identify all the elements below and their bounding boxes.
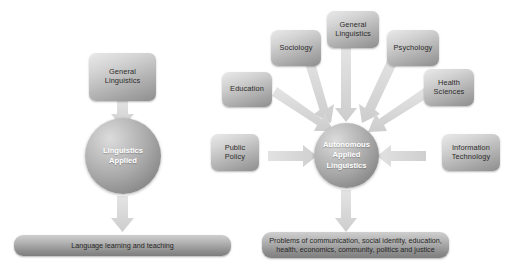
- node-label: GeneralLinguistics: [105, 68, 141, 85]
- node-label: HealthSciences: [434, 79, 465, 96]
- node-label: PublicPolicy: [225, 144, 246, 161]
- node-linguistics-applied[interactable]: LinguisticsApplied: [85, 118, 161, 194]
- figure-canvas: GeneralLinguistics LinguisticsApplied La…: [0, 0, 510, 279]
- node-psychology[interactable]: Psychology: [387, 30, 439, 66]
- node-education[interactable]: Education: [222, 72, 272, 107]
- node-problems-outcome[interactable]: Problems of communication, social identi…: [262, 232, 449, 258]
- node-label: Education: [230, 85, 264, 94]
- node-public-policy[interactable]: PublicPolicy: [211, 134, 259, 171]
- node-label: GeneralLinguistics: [335, 21, 371, 38]
- node-sociology[interactable]: Sociology: [271, 30, 321, 66]
- node-label: Problems of communication, social identi…: [269, 236, 441, 255]
- node-autonomous-applied-linguistics[interactable]: AutonomousAppliedLinguistics: [314, 123, 379, 188]
- node-label: Sociology: [280, 44, 313, 53]
- node-label: Psychology: [394, 44, 433, 53]
- node-language-learning-and-teaching[interactable]: Language learning and teaching: [14, 235, 231, 256]
- node-health-sciences[interactable]: HealthSciences: [424, 69, 474, 106]
- node-label: LinguisticsApplied: [103, 146, 143, 166]
- node-layer: GeneralLinguistics LinguisticsApplied La…: [0, 0, 510, 279]
- node-label: Language learning and teaching: [71, 241, 174, 250]
- node-information-technology[interactable]: InformationTechnology: [442, 134, 500, 171]
- node-general-linguistics-left[interactable]: GeneralLinguistics: [89, 53, 156, 101]
- node-label: InformationTechnology: [452, 144, 490, 161]
- node-label: AutonomousAppliedLinguistics: [323, 140, 370, 170]
- node-general-linguistics-right[interactable]: GeneralLinguistics: [327, 11, 379, 48]
